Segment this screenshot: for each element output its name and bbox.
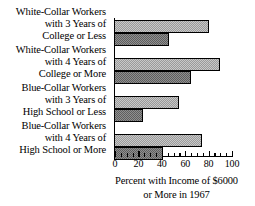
category-label-0-line-2: College or Less <box>16 30 106 42</box>
plot-area <box>115 18 232 158</box>
x-tick-minor-90 <box>220 153 221 157</box>
bar-group-1-lower <box>114 71 191 84</box>
category-labels: White-Collar Workers with 3 Years of Col… <box>0 0 110 160</box>
bar-group-0-lower <box>114 33 169 46</box>
x-tick-minor-5 <box>121 153 122 157</box>
category-label-3: Blue-Collar Workers with 4 Years of High… <box>19 120 106 157</box>
category-label-0-line-1: with 3 Years of <box>16 18 106 30</box>
category-label-1-line-1: with 4 Years of <box>16 56 106 68</box>
x-tick-minor-15 <box>133 153 134 157</box>
x-tick-minor-70 <box>197 153 198 157</box>
category-label-2: Blue-Collar Workers with 3 Years of High… <box>22 82 106 119</box>
bar-chart: White-Collar Workers with 3 Years of Col… <box>0 0 255 206</box>
bar-group-1-upper <box>114 58 220 71</box>
category-label-0: White-Collar Workers with 3 Years of Col… <box>16 6 106 43</box>
x-tick-major-0 <box>115 151 116 157</box>
category-label-2-line-0: Blue-Collar Workers <box>22 82 106 94</box>
category-label-2-line-1: with 3 Years of <box>22 94 106 106</box>
x-tick-major-80 <box>209 151 210 157</box>
x-tick-minor-75 <box>203 153 204 157</box>
x-tick-major-40 <box>162 151 163 157</box>
category-label-0-line-0: White-Collar Workers <box>16 6 106 18</box>
x-tick-minor-10 <box>127 153 128 157</box>
x-tick-minor-45 <box>168 153 169 157</box>
bar-group-0-upper <box>114 20 209 33</box>
bar-group-2-upper <box>114 96 179 109</box>
bar-group-3-upper <box>114 134 202 147</box>
x-tick-minor-50 <box>174 153 175 157</box>
x-tick-minor-30 <box>150 153 151 157</box>
category-label-3-line-0: Blue-Collar Workers <box>19 120 106 132</box>
category-label-2-line-2: High School or Less <box>22 106 106 118</box>
category-label-1-line-2: College or More <box>16 68 106 80</box>
x-tick-minor-95 <box>226 153 227 157</box>
x-tick-minor-35 <box>156 153 157 157</box>
x-tick-minor-65 <box>191 153 192 157</box>
x-tick-minor-55 <box>179 153 180 157</box>
x-tick-major-20 <box>138 151 139 157</box>
x-tick-major-60 <box>185 151 186 157</box>
x-axis-title: Percent with Income of $6000 or More in … <box>98 174 255 201</box>
x-tick-minor-85 <box>214 153 215 157</box>
bar-group-2-lower <box>114 109 143 122</box>
category-label-3-line-2: High School or More <box>19 144 106 156</box>
category-label-1: White-Collar Workers with 4 Years of Col… <box>16 44 106 81</box>
x-axis-title-line-1: or More in 1967 <box>98 188 255 202</box>
x-tick-label-100: 100 <box>217 158 247 169</box>
category-label-1-line-0: White-Collar Workers <box>16 44 106 56</box>
category-label-3-line-1: with 4 Years of <box>19 132 106 144</box>
x-tick-minor-25 <box>144 153 145 157</box>
x-tick-major-100 <box>232 151 233 157</box>
x-axis-title-line-0: Percent with Income of $6000 <box>98 174 255 188</box>
